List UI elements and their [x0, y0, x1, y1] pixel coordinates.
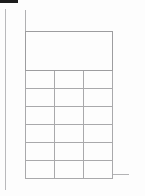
- table-cell: [84, 143, 113, 161]
- table-row: [26, 71, 113, 89]
- table-cell: [84, 89, 113, 107]
- table-cell: [84, 161, 113, 179]
- table-cell: [26, 107, 55, 125]
- table-cell: [55, 107, 84, 125]
- scanned-page-canvas: [0, 0, 145, 196]
- table-baseline-extension: [112, 174, 129, 175]
- table-cell: [26, 125, 55, 143]
- table-row: [26, 143, 113, 161]
- page-margin-rule: [5, 9, 6, 190]
- form-grid-table: [25, 31, 113, 179]
- table-cell: [55, 89, 84, 107]
- table-header-cell: [26, 32, 113, 71]
- table-cell: [26, 71, 55, 89]
- table-body: [26, 32, 113, 179]
- table-left-rule-extension: [25, 10, 26, 32]
- table-cell: [84, 107, 113, 125]
- table-cell: [55, 125, 84, 143]
- table-cell: [84, 71, 113, 89]
- scan-artifact-mark: [0, 0, 18, 3]
- table-row: [26, 161, 113, 179]
- table-cell: [55, 71, 84, 89]
- table-cell: [26, 89, 55, 107]
- table-cell: [26, 143, 55, 161]
- table-row: [26, 89, 113, 107]
- table-cell: [84, 125, 113, 143]
- table-cell: [26, 161, 55, 179]
- table-cell: [55, 143, 84, 161]
- table-row: [26, 107, 113, 125]
- table-row: [26, 125, 113, 143]
- table-cell: [55, 161, 84, 179]
- table-header-row: [26, 32, 113, 71]
